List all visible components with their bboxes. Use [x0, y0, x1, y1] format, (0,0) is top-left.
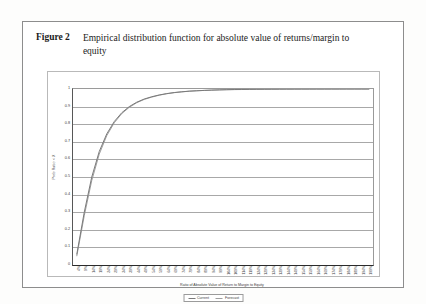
chart-legend: CurrentForecast	[183, 294, 244, 302]
legend-entry: Current	[188, 296, 209, 300]
y-axis-tick-label: 1	[68, 86, 70, 90]
x-axis-tick-label: 4%	[77, 266, 81, 271]
x-axis-tick-label: 74%	[182, 266, 186, 273]
x-axis-tick-label: 139%	[279, 266, 283, 275]
x-axis-tick-label: 149%	[294, 266, 298, 275]
x-axis-tick-label: 154%	[302, 266, 306, 275]
x-axis-tick-label: 49%	[144, 266, 148, 273]
x-axis-tick-label: 174%	[332, 266, 336, 275]
plot-area	[72, 88, 374, 266]
x-axis-tick-label: 69%	[174, 266, 178, 273]
x-axis-tick-label: 194%	[362, 266, 366, 275]
figure-caption: Figure 2 Empirical distribution function…	[36, 32, 388, 57]
x-axis-tick-label: 134%	[272, 266, 276, 275]
chart-curves	[73, 89, 373, 265]
legend-entry: Forecast	[216, 296, 239, 300]
x-axis-tick-label: 89%	[204, 266, 208, 273]
x-axis-tick-label: 119%	[249, 266, 253, 274]
x-axis-tick-label: 199%	[369, 266, 373, 275]
y-axis-tick-labels: 00.10.20.30.40.50.60.70.80.91	[57, 88, 71, 264]
y-axis-tick-label: 0	[68, 262, 70, 266]
x-axis-tick-label: 39%	[129, 266, 133, 273]
y-axis-tick-label: 0.3	[65, 209, 70, 213]
x-axis-tick-label: 164%	[317, 266, 321, 275]
x-axis-tick-label: 124%	[257, 266, 261, 275]
x-axis-tick-label: 34%	[122, 266, 126, 273]
x-axis-tick-label: 109%	[234, 266, 238, 275]
x-axis-tick-label: 129%	[264, 266, 268, 275]
x-axis-title: Ratio of Absolute Value of Return to Mar…	[72, 283, 372, 287]
x-axis-tick-label: 79%	[189, 266, 193, 273]
x-axis-tick-label: 19%	[99, 266, 103, 273]
x-axis-tick-label: 84%	[197, 266, 201, 273]
legend-swatch	[188, 298, 195, 299]
y-axis-tick-label: 0.1	[65, 244, 70, 248]
y-axis-tick-label: 0.2	[65, 227, 70, 231]
x-axis-tick-label: 104%	[227, 266, 231, 275]
y-axis-tick-label: 0.9	[65, 104, 70, 108]
x-axis-tick-label: 99%	[219, 266, 223, 273]
figure-number-label: Figure 2	[36, 32, 70, 42]
x-axis-tick-label: 29%	[114, 266, 118, 273]
legend-label: Forecast	[225, 296, 239, 300]
x-axis-tick-label: 114%	[242, 266, 246, 274]
x-axis-tick-label: 169%	[324, 266, 328, 275]
x-axis-tick-labels: 4%9%14%19%24%29%34%39%44%49%54%59%64%69%…	[72, 266, 374, 282]
x-axis-tick-label: 179%	[339, 266, 343, 275]
legend-swatch	[216, 298, 223, 299]
x-axis-tick-label: 44%	[137, 266, 141, 273]
x-axis-tick-label: 94%	[212, 266, 216, 273]
x-axis-tick-label: 159%	[309, 266, 313, 275]
series-line	[77, 89, 370, 254]
x-axis-tick-label: 54%	[152, 266, 156, 273]
y-axis-tick-label: 0.8	[65, 121, 70, 125]
x-axis-tick-label: 184%	[347, 266, 351, 275]
figure-frame: Figure 2 Empirical distribution function…	[22, 21, 404, 288]
x-axis-tick-label: 64%	[167, 266, 171, 273]
figure-caption-text: Empirical distribution function for abso…	[83, 32, 359, 57]
y-axis-tick-label: 0.4	[65, 192, 70, 196]
x-axis-tick-label: 24%	[107, 266, 111, 273]
x-axis-tick-label: 189%	[354, 266, 358, 275]
y-axis-tick-label: 0.5	[65, 174, 70, 178]
y-axis-tick-label: 0.7	[65, 139, 70, 143]
y-axis-tick-label: 0.6	[65, 156, 70, 160]
x-axis-tick-label: 59%	[159, 266, 163, 273]
x-axis-tick-label: 9%	[84, 266, 88, 271]
chart-container: Prob Ratio < X 00.10.20.30.40.50.60.70.8…	[47, 71, 380, 277]
y-axis-title-text: Prob Ratio < X	[53, 155, 57, 180]
legend-label: Current	[197, 296, 209, 300]
x-axis-tick-label: 144%	[287, 266, 291, 275]
x-axis-tick-label: 14%	[92, 266, 96, 273]
